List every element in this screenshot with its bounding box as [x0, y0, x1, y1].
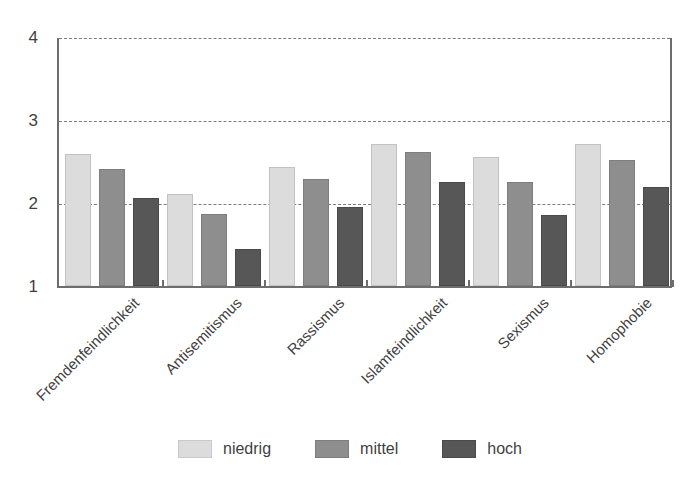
- legend-swatch-mittel: [315, 440, 349, 458]
- bar-group: [163, 38, 265, 286]
- bar-group: [571, 38, 673, 286]
- x-axis-label-islamfeindlichkeit: Islamfeindlichkeit: [357, 294, 450, 387]
- y-axis-tick-3: 3: [14, 112, 38, 129]
- bar-mittel-islamfeindlichkeit: [405, 152, 431, 286]
- x-axis-label-rassismus: Rassismus: [283, 294, 347, 358]
- chart-legend: niedrigmittelhoch: [0, 440, 700, 458]
- bar-niedrig-homophobie: [575, 144, 601, 287]
- x-axis-label-fremdenfeindlichkeit: Fremdenfeindlichkeit: [32, 294, 142, 404]
- bar-hoch-islamfeindlichkeit: [439, 182, 465, 286]
- bar-chart: 4 3 2 1 FremdenfeindlichkeitAntisemitism…: [0, 0, 700, 485]
- y-axis-tick-1: 1: [14, 278, 38, 295]
- legend-label-hoch: hoch: [487, 440, 522, 458]
- legend-label-niedrig: niedrig: [223, 440, 271, 458]
- x-axis-tick: [672, 280, 674, 287]
- y-axis-tick-2: 2: [14, 195, 38, 212]
- bar-hoch-sexismus: [541, 215, 567, 286]
- x-axis-category-labels: FremdenfeindlichkeitAntisemitismusRassis…: [57, 288, 672, 413]
- bar-niedrig-rassismus: [269, 167, 295, 286]
- bar-group: [265, 38, 367, 286]
- x-axis-label-homophobie: Homophobie: [583, 294, 655, 366]
- bar-niedrig-fremdenfeindlichkeit: [65, 154, 91, 286]
- y-axis-tick-4: 4: [14, 29, 38, 46]
- legend-item-mittel[interactable]: mittel: [315, 440, 398, 458]
- legend-label-mittel: mittel: [360, 440, 398, 458]
- bar-group: [469, 38, 571, 286]
- bar-niedrig-sexismus: [473, 157, 499, 286]
- bar-niedrig-islamfeindlichkeit: [371, 144, 397, 287]
- bar-hoch-rassismus: [337, 207, 363, 286]
- bar-hoch-homophobie: [643, 187, 669, 286]
- bar-mittel-rassismus: [303, 179, 329, 287]
- bar-hoch-antisemitismus: [235, 249, 261, 286]
- bar-mittel-antisemitismus: [201, 214, 227, 286]
- bar-mittel-fremdenfeindlichkeit: [99, 169, 125, 286]
- bar-niedrig-antisemitismus: [167, 194, 193, 286]
- x-axis-label-sexismus: Sexismus: [494, 294, 552, 352]
- plot-area: [57, 38, 672, 288]
- legend-item-hoch[interactable]: hoch: [442, 440, 522, 458]
- x-axis-label-antisemitismus: Antisemitismus: [161, 294, 244, 377]
- legend-swatch-niedrig: [178, 440, 212, 458]
- bar-group: [61, 38, 163, 286]
- bar-mittel-homophobie: [609, 160, 635, 286]
- bar-group: [367, 38, 469, 286]
- legend-item-niedrig[interactable]: niedrig: [178, 440, 271, 458]
- bar-hoch-fremdenfeindlichkeit: [133, 198, 159, 286]
- legend-swatch-hoch: [442, 440, 476, 458]
- bar-mittel-sexismus: [507, 182, 533, 286]
- bar-groups: [61, 38, 668, 286]
